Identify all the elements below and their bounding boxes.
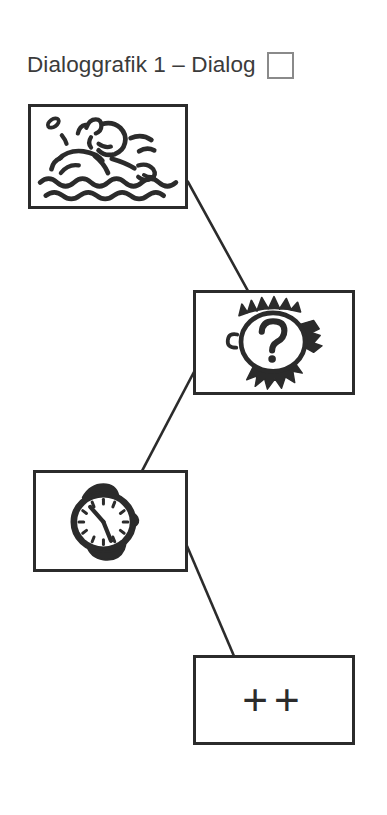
swimmer-in-water-icon <box>31 107 185 206</box>
head-with-question-mark-icon <box>196 293 352 392</box>
picture-card-question[interactable] <box>193 290 355 395</box>
picture-card-swimmer[interactable] <box>28 104 188 209</box>
page-header: Dialoggrafik 1 – Dialog <box>27 45 294 85</box>
dialog-graphic-page: Dialoggrafik 1 – Dialog <box>0 0 387 815</box>
connector-card2-card3 <box>142 372 194 471</box>
picture-card-plus-plus[interactable]: ++ <box>193 655 355 745</box>
connector-card3-card4 <box>187 546 234 656</box>
plus-plus-label: ++ <box>242 678 305 722</box>
page-title: Dialoggrafik 1 – Dialog <box>27 52 256 78</box>
dialog-checkbox[interactable] <box>267 52 294 79</box>
picture-card-watch[interactable] <box>33 470 188 572</box>
connector-card1-card2 <box>188 182 248 291</box>
wristwatch-clock-icon <box>36 473 185 569</box>
